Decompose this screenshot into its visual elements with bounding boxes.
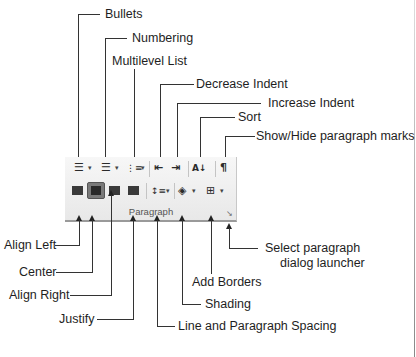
callout-shading: Shading — [205, 297, 251, 311]
align-left-leader — [55, 245, 80, 246]
sort-leader — [200, 117, 235, 118]
borders-icon[interactable]: ⊞ — [206, 185, 215, 197]
line-spacing-icon[interactable]: ↕≡ — [151, 185, 166, 197]
shading-dropdown-icon[interactable]: ▾ — [192, 187, 196, 195]
borders-dropdown-icon[interactable]: ▾ — [220, 187, 224, 195]
separator — [188, 161, 189, 177]
callout-align-left: Align Left — [4, 238, 56, 252]
line-spacing-leader — [157, 326, 175, 327]
align-right-leader-v — [111, 195, 112, 296]
bullets-leader-v — [78, 14, 79, 160]
shading-leader — [182, 304, 201, 305]
add-borders-leader-v — [211, 220, 212, 274]
launcher-leader — [229, 248, 258, 249]
shading-icon[interactable]: ◈ — [178, 185, 186, 197]
separator — [146, 183, 147, 199]
align-left-leader-v — [79, 220, 80, 246]
line-spacing-dropdown-icon[interactable]: ▾ — [166, 187, 170, 195]
justify-icon[interactable] — [128, 186, 139, 195]
callout-increase-indent: Increase Indent — [268, 96, 354, 110]
align-left-icon[interactable] — [72, 186, 83, 195]
pilcrow-icon[interactable]: ¶ — [220, 162, 227, 174]
decrease-indent-leader — [160, 84, 194, 85]
sort-leader-v — [200, 117, 201, 160]
line-spacing-leader-v — [157, 220, 158, 327]
shading-leader-v — [182, 220, 183, 305]
numbering-leader — [105, 38, 127, 39]
increase-indent-leader — [177, 103, 261, 104]
callout-multilevel: Multilevel List — [112, 54, 187, 68]
callout-align-right: Align Right — [9, 288, 69, 302]
align-center-icon[interactable] — [87, 182, 105, 199]
decrease-indent-leader-v — [160, 84, 161, 160]
callout-launcher-line1: Select paragraph — [265, 241, 360, 255]
justify-leader — [97, 319, 134, 320]
separator — [149, 161, 150, 177]
launcher-leader-v — [229, 228, 230, 249]
page-border — [414, 0, 415, 357]
increase-indent-leader-v — [177, 103, 178, 160]
separator — [215, 161, 216, 177]
numbering-dropdown-icon[interactable]: ▾ — [115, 164, 119, 172]
callout-launcher-line2: dialog launcher — [280, 256, 365, 270]
justify-leader-v — [133, 220, 134, 320]
multilevel-dropdown-icon[interactable]: ▾ — [141, 164, 145, 172]
callout-sort: Sort — [238, 110, 261, 124]
sort-icon[interactable]: A↓ — [192, 162, 207, 174]
numbering-leader-v — [105, 38, 106, 160]
bullets-leader — [78, 14, 100, 15]
align-right-leader — [70, 295, 112, 296]
callout-bullets: Bullets — [105, 7, 143, 21]
callout-add-borders: Add Borders — [192, 275, 261, 289]
callout-line-spacing: Line and Paragraph Spacing — [178, 319, 336, 333]
show-hide-leader — [225, 136, 255, 137]
callout-decrease-indent: Decrease Indent — [196, 77, 288, 91]
bullets-icon[interactable]: ☰ — [74, 162, 84, 174]
multilevel-leader-v — [134, 69, 135, 160]
dialog-launcher-icon[interactable]: ↘ — [226, 209, 233, 218]
bullets-dropdown-icon[interactable]: ▾ — [88, 164, 92, 172]
callout-numbering: Numbering — [132, 31, 193, 45]
paragraph-ribbon-group: ☰ ▾ ☰ ▾ ⋮≡ ▾ ⇤ ⇥ A↓ ¶ ↕≡ ▾ ◈ ▾ ⊞ ▾ Parag… — [65, 157, 237, 222]
center-leader-v — [92, 220, 93, 272]
numbering-icon[interactable]: ☰ — [101, 162, 111, 174]
increase-indent-icon[interactable]: ⇥ — [171, 162, 180, 174]
callout-show-hide: Show/Hide paragraph marks — [256, 129, 414, 143]
decrease-indent-icon[interactable]: ⇤ — [154, 162, 163, 174]
callout-justify: Justify — [59, 312, 94, 326]
separator — [174, 183, 175, 199]
center-leader — [56, 272, 93, 273]
callout-center: Center — [19, 265, 57, 279]
